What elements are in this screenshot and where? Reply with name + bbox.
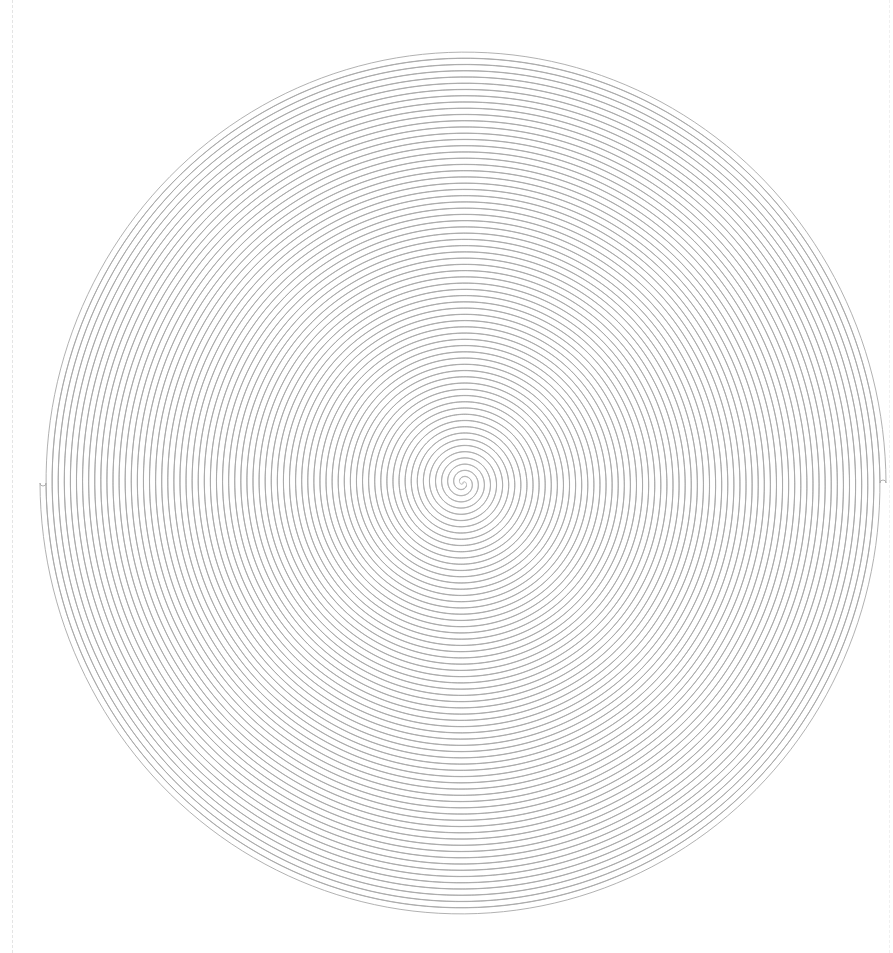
spiral-arm-b [52,58,880,901]
spiral-arms [40,52,886,914]
spiral-arm-a [40,483,46,486]
spiral-arm-b [880,480,886,483]
spiral-diagram [0,0,893,953]
spiral-arm-a [46,64,874,907]
